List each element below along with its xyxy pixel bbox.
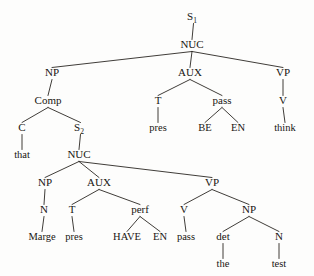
tree-edge-pass1-to-en1: [222, 108, 238, 123]
tree-node-label: NUC: [67, 148, 90, 160]
tree-node-label: pres: [65, 231, 83, 242]
tree-node-the: the: [217, 258, 230, 269]
tree-node-layer: S1NUCNPAUXVPCompTpassVCS2presBEENthinkth…: [14, 10, 296, 269]
tree-node-test: test: [272, 258, 287, 269]
tree-node-label: N: [40, 203, 48, 215]
tree-node-label: EN: [153, 231, 167, 242]
tree-node-label: AUX: [178, 66, 202, 78]
tree-node-label: det: [216, 230, 229, 242]
tree-edge-n1-to-marge: [42, 217, 44, 232]
tree-node-label: N: [275, 230, 283, 242]
tree-node-label: think: [274, 122, 296, 133]
tree-node-label: VP: [276, 66, 290, 78]
tree-node-think: think: [274, 122, 296, 133]
tree-node-label: NP: [38, 176, 52, 188]
tree-node-c: C: [18, 121, 25, 133]
tree-edge-v1-to-think: [283, 108, 285, 123]
syntax-tree-canvas: S1NUCNPAUXVPCompTpassVCS2presBEENthinkth…: [0, 0, 314, 276]
tree-node-subscript: 2: [80, 127, 84, 136]
tree-edge-vp2-to-v2: [184, 190, 212, 205]
tree-node-label: test: [272, 258, 287, 269]
tree-node-label: AUX: [87, 176, 111, 188]
tree-node-label: T: [69, 203, 76, 215]
tree-edge-nuc1-to-vp1: [192, 52, 283, 68]
tree-edge-perf-to-have: [127, 217, 140, 232]
tree-node-comp: Comp: [35, 94, 62, 106]
tree-node-label: T: [155, 94, 162, 106]
tree-node-s2: S2: [74, 121, 84, 136]
tree-node-label: V: [180, 203, 188, 215]
tree-node-label: Marge: [28, 231, 56, 242]
tree-edge-t2-to-pres2: [72, 217, 74, 232]
tree-node-aux2: AUX: [87, 176, 111, 188]
tree-node-pass1: pass: [213, 94, 232, 106]
tree-node-perf: perf: [131, 203, 149, 215]
tree-edge-layer: [22, 24, 285, 259]
tree-node-label: NP: [45, 66, 59, 78]
tree-node-label: the: [217, 258, 230, 269]
tree-node-label: pass: [177, 231, 195, 242]
tree-node-marge: Marge: [28, 231, 56, 242]
tree-node-np2: NP: [38, 176, 52, 188]
tree-node-label: perf: [131, 203, 149, 215]
tree-node-label: pass: [213, 94, 232, 106]
tree-node-label: NP: [242, 203, 256, 215]
tree-node-have: HAVE: [113, 231, 141, 242]
syntax-tree-figure: S1NUCNPAUXVPCompTpassVCS2presBEENthinkth…: [0, 0, 314, 276]
tree-node-that: that: [14, 149, 30, 160]
tree-edge-comp-to-c: [22, 108, 48, 123]
tree-edge-v2-to-pass2: [184, 217, 186, 232]
tree-node-vp2: VP: [205, 176, 219, 188]
tree-node-s1: S1: [187, 10, 197, 25]
tree-node-t1: T: [155, 94, 162, 106]
tree-node-en1: EN: [231, 122, 245, 133]
tree-node-n2: N: [275, 230, 283, 242]
tree-node-label: C: [18, 121, 25, 133]
tree-edge-perf-to-en2: [140, 217, 160, 232]
tree-edge-nuc1-to-np1: [52, 52, 192, 68]
tree-node-label: that: [14, 149, 30, 160]
tree-node-label: HAVE: [113, 231, 141, 242]
tree-edge-aux2-to-t2: [72, 190, 99, 205]
tree-node-det: det: [216, 230, 229, 242]
tree-node-label: V: [279, 94, 287, 106]
tree-node-v1: V: [279, 94, 287, 106]
tree-node-pass2: pass: [177, 231, 195, 242]
tree-node-be: BE: [198, 122, 211, 133]
tree-node-vp1: VP: [276, 66, 290, 78]
tree-node-label: VP: [205, 176, 219, 188]
tree-node-np3: NP: [242, 203, 256, 215]
tree-node-pres1: pres: [149, 122, 167, 133]
tree-node-n1: N: [40, 203, 48, 215]
tree-node-en2: EN: [153, 231, 167, 242]
tree-node-aux1: AUX: [178, 66, 202, 78]
tree-node-subscript: 1: [193, 16, 197, 25]
tree-node-pres2: pres: [65, 231, 83, 242]
tree-node-label: EN: [231, 122, 245, 133]
tree-edge-aux1-to-t1: [158, 80, 190, 96]
tree-node-label: BE: [198, 122, 211, 133]
tree-node-nuc1: NUC: [180, 38, 203, 50]
tree-node-np1: NP: [45, 66, 59, 78]
tree-node-label: pres: [149, 122, 167, 133]
tree-node-nuc2: NUC: [67, 148, 90, 160]
tree-node-label: Comp: [35, 94, 62, 106]
tree-node-label: NUC: [180, 38, 203, 50]
tree-node-t2: T: [69, 203, 76, 215]
tree-edge-pass1-to-be: [205, 108, 222, 123]
tree-node-v2: V: [180, 203, 188, 215]
